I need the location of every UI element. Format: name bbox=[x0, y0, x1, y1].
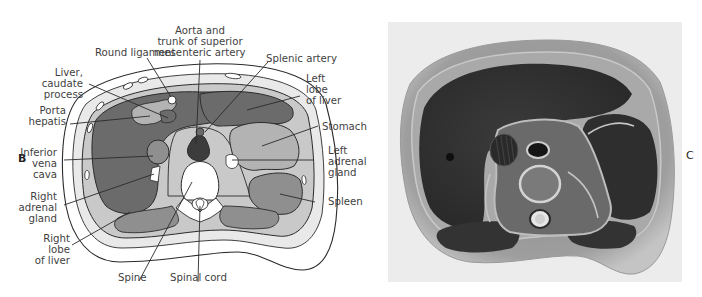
label-right-lobe-2: lobe bbox=[48, 244, 70, 255]
label-left-adrenal-2: adrenal bbox=[328, 156, 366, 167]
label-spinal-cord: Spinal cord bbox=[170, 272, 227, 283]
left-adrenal-gland bbox=[226, 154, 238, 168]
label-left-lobe-2: lobe bbox=[306, 84, 328, 95]
inferior-vena-cava bbox=[147, 140, 169, 164]
photo-spinal-cord bbox=[535, 214, 545, 224]
label-ivc-1: Inferior bbox=[20, 147, 58, 158]
photo-vertebral-body bbox=[520, 166, 560, 202]
label-right-adrenal-1: Right bbox=[30, 191, 57, 202]
label-right-lobe-1: Right bbox=[43, 233, 70, 244]
label-porta-2: hepatis bbox=[28, 116, 66, 127]
caudate-process bbox=[160, 110, 176, 123]
label-left-adrenal-3: gland bbox=[328, 167, 356, 178]
label-porta-1: Porta bbox=[40, 105, 66, 116]
label-splenic-artery: Splenic artery bbox=[266, 53, 337, 64]
label-spleen: Spleen bbox=[328, 196, 363, 207]
label-aorta-3: mesenteric artery bbox=[154, 47, 245, 58]
stomach bbox=[230, 123, 299, 171]
label-right-adrenal-2: adrenal bbox=[19, 202, 57, 213]
label-left-lobe-1: Left bbox=[306, 73, 325, 84]
label-ivc-2: vena bbox=[32, 158, 57, 169]
cadaver-section-photo bbox=[388, 22, 682, 282]
label-spine: Spine bbox=[118, 272, 147, 283]
label-left-adrenal-1: Left bbox=[328, 145, 347, 156]
panel-c-photograph bbox=[388, 22, 682, 282]
round-ligament bbox=[168, 96, 176, 104]
label-right-lobe-3: of liver bbox=[35, 255, 71, 266]
panel-b-diagram: Round ligament Aorta and trunk of superi… bbox=[0, 0, 380, 297]
superior-mesenteric-artery bbox=[196, 128, 204, 136]
label-caudate-1: Liver, bbox=[55, 67, 83, 78]
label-left-lobe-3: of liver bbox=[306, 95, 342, 106]
label-stomach: Stomach bbox=[322, 121, 367, 132]
panel-letter-c-holder: C bbox=[682, 0, 702, 297]
label-aorta-2: trunk of superior bbox=[157, 36, 243, 47]
photo-aorta bbox=[527, 142, 549, 158]
label-right-adrenal-3: gland bbox=[29, 213, 57, 224]
label-ivc-3: cava bbox=[33, 169, 57, 180]
label-caudate-3: process bbox=[44, 89, 83, 100]
panel-letter-c: C bbox=[686, 149, 694, 162]
label-aorta-1: Aorta and bbox=[175, 25, 225, 36]
label-caudate-2: caudate bbox=[42, 78, 83, 89]
vertebral-body bbox=[181, 162, 219, 201]
photo-vessel-spot bbox=[446, 153, 454, 161]
cross-section-diagram: Round ligament Aorta and trunk of superi… bbox=[0, 0, 380, 297]
